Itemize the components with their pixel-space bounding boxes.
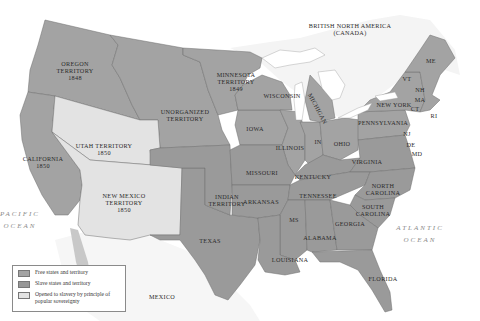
swatch-free [18, 270, 30, 277]
label-line: CAROLINA [366, 189, 400, 196]
label-line: ATLANTIC [396, 222, 444, 234]
label-delaware: DE [407, 141, 416, 148]
label-indian-territory: INDIAN TERRITORY [209, 193, 246, 207]
label-tennessee: TENNESSEE [299, 192, 336, 199]
label-line: UNORGANIZED [161, 108, 209, 115]
label-illinois: ILLINOIS [276, 144, 305, 151]
label-minnesota-territory: MINNESOTA TERRITORY 1849 [217, 71, 256, 92]
label-atlantic-ocean: ATLANTIC OCEAN [396, 222, 444, 246]
label-new-york: NEW YORK [376, 101, 411, 108]
label-arkansas: ARKANSAS [243, 198, 279, 205]
label-line: UTAH TERRITORY [76, 142, 133, 149]
label-massachusetts: MA [415, 96, 426, 103]
label-indiana: IN [314, 138, 321, 145]
label-connecticut: CT [411, 105, 420, 112]
label-line: 1849 [217, 85, 256, 92]
label-maryland: MD [412, 150, 423, 157]
label-line: NORTH [366, 182, 400, 189]
label-line: OCEAN [0, 220, 40, 232]
label-iowa: IOWA [246, 125, 263, 132]
ohio [320, 118, 360, 160]
label-oregon-territory: OREGON TERRITORY 1848 [57, 60, 94, 81]
legend-label: Free states and territory [35, 269, 88, 276]
swatch-popular-sovereignty [18, 292, 30, 299]
label-virginia: VIRGINIA [352, 158, 383, 165]
label-unorganized-territory: UNORGANIZED TERRITORY [161, 108, 209, 122]
label-florida: FLORIDA [369, 275, 398, 282]
swatch-slave [18, 281, 30, 288]
label-line: NEW MEXICO [103, 192, 146, 199]
label-utah-territory: UTAH TERRITORY 1850 [76, 142, 133, 156]
label-south-carolina: SOUTH CAROLINA [356, 203, 390, 217]
label-line: PACIFIC [0, 208, 40, 220]
label-line: TERRITORY [103, 199, 146, 206]
label-line: SOUTH [356, 203, 390, 210]
legend-item-popular-sovereignty: Opened to slavery by principle of popula… [18, 291, 120, 304]
label-british-north-america: BRITISH NORTH AMERICA (CANADA) [309, 22, 392, 36]
legend-item-free: Free states and territory [18, 269, 120, 277]
legend-item-slave: Slave states and territory [18, 280, 120, 288]
label-pennsylvania: PENNSYLVANIA [358, 119, 408, 126]
label-north-carolina: NORTH CAROLINA [366, 182, 400, 196]
label-rhode-island: RI [431, 112, 438, 119]
label-mexico: MEXICO [149, 293, 175, 300]
mississippi [280, 200, 307, 260]
label-wisconsin: WISCONSIN [263, 92, 300, 99]
label-ohio: OHIO [334, 140, 351, 147]
label-maine: ME [426, 57, 436, 64]
label-new-jersey: NJ [403, 130, 410, 137]
legend: Free states and territory Slave states a… [12, 265, 126, 312]
label-line: MINNESOTA [217, 71, 256, 78]
label-mississippi: MS [289, 216, 299, 223]
legend-label: Slave states and territory [35, 280, 90, 287]
label-line: TERRITORY [209, 200, 246, 207]
label-line: CAROLINA [356, 210, 390, 217]
label-line: BRITISH NORTH AMERICA [309, 22, 392, 29]
label-alabama: ALABAMA [303, 234, 336, 241]
label-line: TERRITORY [217, 78, 256, 85]
label-line: OREGON [57, 60, 94, 67]
label-line: 1848 [57, 74, 94, 81]
label-line: TERRITORY [161, 115, 209, 122]
label-new-hampshire: NH [415, 86, 425, 93]
label-line: 1850 [23, 162, 63, 169]
label-new-mexico-territory: NEW MEXICO TERRITORY 1850 [103, 192, 146, 213]
virginia [350, 135, 415, 172]
label-california: CALIFORNIA 1850 [23, 155, 63, 169]
label-kentucky: KENTUCKY [295, 173, 331, 180]
label-pacific-ocean: PACIFIC OCEAN [0, 208, 40, 232]
label-louisiana: LOUISIANA [272, 256, 308, 263]
label-texas: TEXAS [199, 237, 220, 244]
label-line: 1850 [76, 149, 133, 156]
label-line: OCEAN [396, 234, 444, 246]
label-line: CALIFORNIA [23, 155, 63, 162]
label-georgia: GEORGIA [335, 220, 365, 227]
label-missouri: MISSOURI [246, 169, 278, 176]
label-line: (CANADA) [309, 29, 392, 36]
legend-label: Opened to slavery by principle of popula… [35, 291, 115, 304]
label-line: 1850 [103, 206, 146, 213]
label-line: TERRITORY [57, 67, 94, 74]
label-line: INDIAN [209, 193, 246, 200]
label-vermont: VT [403, 75, 412, 82]
